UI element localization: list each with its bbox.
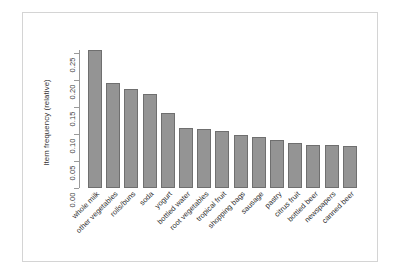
y-axis-tick-label: 0.20 — [68, 84, 77, 99]
y-axis-tick — [74, 134, 79, 135]
bar — [179, 128, 193, 188]
y-axis-tick-label: 0.00 — [68, 193, 77, 208]
y-axis-tick — [74, 53, 79, 54]
bar — [161, 113, 175, 188]
y-axis-tick — [74, 80, 79, 81]
bar — [270, 140, 284, 188]
y-axis-tick-label-wrap: 0.00 — [54, 188, 72, 189]
y-axis-line — [79, 50, 80, 188]
bar — [143, 94, 157, 188]
y-axis-tick-label-wrap: 0.05 — [54, 161, 72, 162]
bar — [306, 145, 320, 188]
bar — [88, 50, 102, 188]
bar — [106, 83, 120, 188]
bar — [252, 137, 266, 188]
y-axis-tick-label: 0.05 — [68, 165, 77, 180]
y-axis-tick-label: 0.25 — [68, 57, 77, 72]
bar — [124, 89, 138, 188]
y-axis-tick — [74, 161, 79, 162]
plot-area: Item frequency (relative) 0.000.050.100.… — [0, 0, 409, 276]
bar — [343, 146, 357, 188]
bar — [234, 135, 248, 188]
y-axis-tick-label-wrap: 0.25 — [54, 53, 72, 54]
y-axis-tick — [74, 107, 79, 108]
bar — [325, 145, 339, 188]
item-frequency-plot: Item frequency (relative) 0.000.050.100.… — [0, 0, 409, 276]
y-axis-tick-label-wrap: 0.20 — [54, 80, 72, 81]
y-axis-tick-label-wrap: 0.15 — [54, 107, 72, 108]
y-axis-tick-label-wrap: 0.10 — [54, 134, 72, 135]
y-axis-tick-label: 0.10 — [68, 138, 77, 153]
bar — [197, 129, 211, 188]
bar — [288, 143, 302, 188]
y-axis-title: Item frequency (relative) — [42, 63, 51, 183]
y-axis-tick — [74, 188, 79, 189]
bar — [215, 131, 229, 188]
y-axis-tick-label: 0.15 — [68, 111, 77, 126]
